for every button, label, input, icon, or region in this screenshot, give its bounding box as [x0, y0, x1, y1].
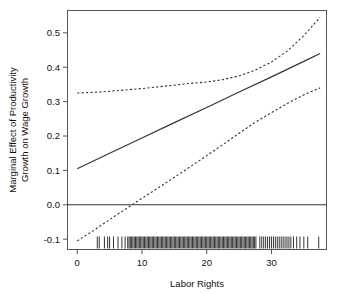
y-axis-title-line-2: Growth on Wage Growth [19, 78, 30, 182]
y-axis-tick-label: 0.2 [47, 130, 60, 141]
y-axis-tick-label: 0.0 [47, 199, 60, 210]
x-axis-tick-label: 0 [75, 257, 80, 268]
chart-canvas: -0.10.00.10.20.30.40.5 0102030 Labor Rig… [0, 0, 339, 294]
x-axis-tick-label: 30 [266, 257, 277, 268]
marginal-effects-chart: -0.10.00.10.20.30.40.5 0102030 Labor Rig… [0, 0, 339, 294]
y-axis: -0.10.00.10.20.30.40.5 [44, 27, 68, 244]
y-axis-tick-label: 0.3 [47, 96, 60, 107]
y-axis-tick-label: -0.1 [44, 234, 60, 245]
plot-frame [68, 11, 327, 250]
upper-confidence-bound-line [77, 17, 320, 93]
x-axis-title: Labor Rights [170, 278, 224, 289]
x-axis: 0102030 [75, 250, 277, 268]
marginal-effect-line [77, 53, 320, 168]
y-axis-tick-label: 0.5 [47, 27, 60, 38]
y-axis-title-line-1: Marginal Effect of Productivity [7, 67, 18, 193]
x-axis-tick-label: 20 [201, 257, 212, 268]
y-axis-tick-label: 0.4 [47, 62, 60, 73]
data-distribution-rug [97, 237, 318, 249]
y-axis-tick-label: 0.1 [47, 165, 60, 176]
x-axis-tick-label: 10 [137, 257, 148, 268]
